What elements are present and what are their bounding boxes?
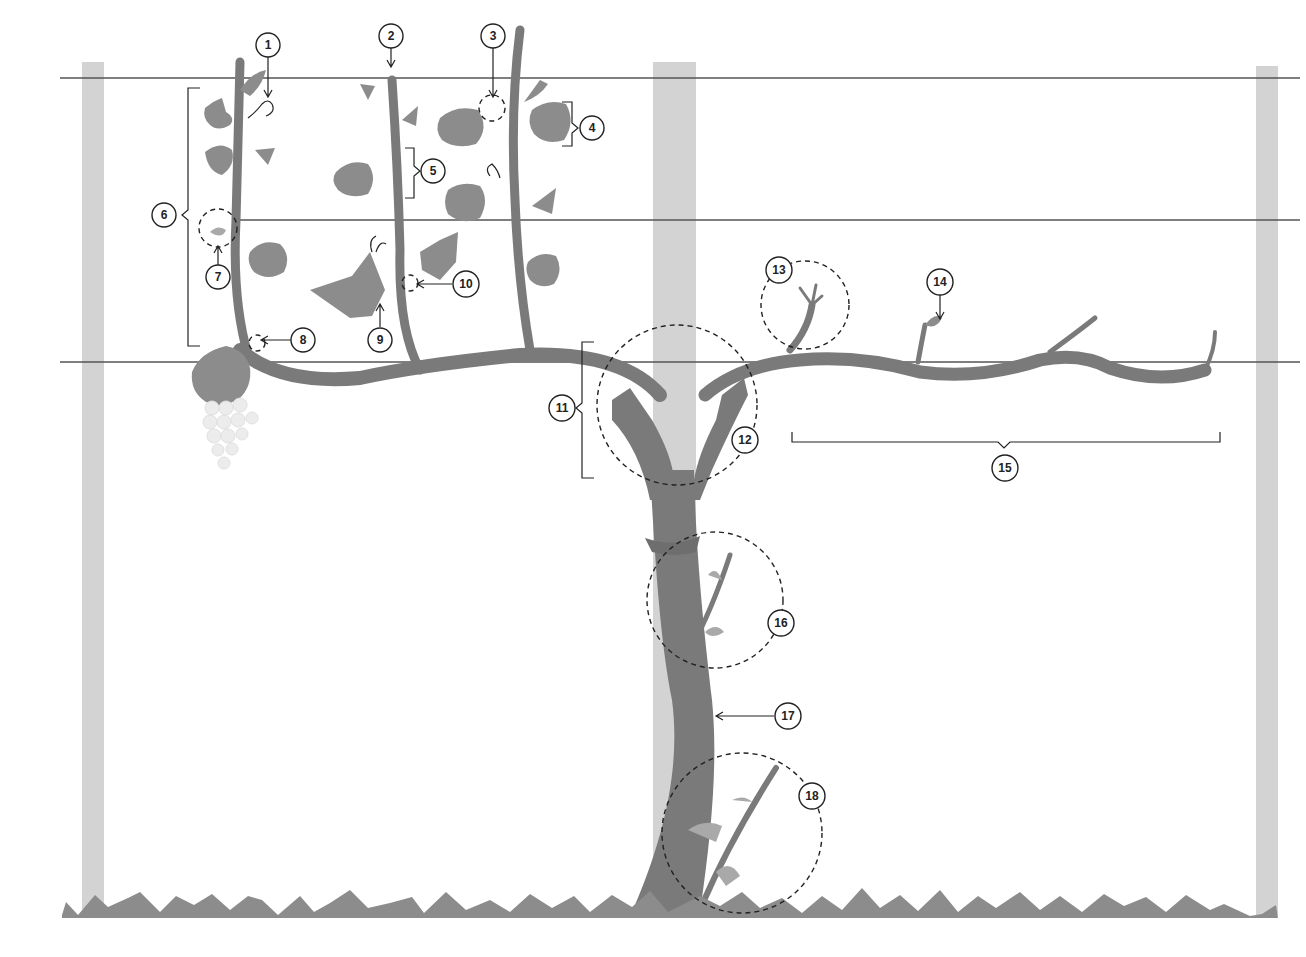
sucker-leaf — [705, 627, 724, 636]
leaf — [420, 232, 458, 280]
callout-17[interactable]: 17 — [775, 703, 801, 729]
trellis-post-right — [1256, 66, 1278, 915]
callout-18[interactable]: 18 — [799, 783, 825, 809]
leader-9 — [376, 304, 384, 327]
bracket-5 — [405, 148, 420, 198]
callout-6[interactable]: 6 — [152, 203, 176, 227]
svg-text:2: 2 — [388, 29, 395, 43]
callout-8[interactable]: 8 — [291, 328, 315, 352]
svg-text:5: 5 — [430, 164, 437, 178]
callout-5[interactable]: 5 — [421, 159, 445, 183]
cordon-right-tip — [1050, 318, 1095, 352]
cordon-right-end — [1205, 332, 1215, 370]
leaf — [333, 162, 373, 196]
svg-text:4: 4 — [589, 121, 596, 135]
tendril-icon — [371, 236, 386, 252]
new-shoot — [918, 325, 925, 362]
leaf — [402, 106, 418, 126]
svg-text:18: 18 — [805, 789, 819, 803]
callout-10[interactable]: 10 — [453, 271, 479, 297]
leaf — [204, 98, 232, 129]
callout-9[interactable]: 9 — [368, 328, 392, 352]
spur-buds — [800, 285, 822, 305]
leader-7 — [214, 246, 222, 265]
leaf — [532, 188, 556, 214]
callout-13[interactable]: 13 — [766, 257, 792, 283]
tendril-icon — [487, 164, 500, 178]
callout-region-3 — [479, 95, 505, 121]
leader-10 — [417, 280, 452, 288]
svg-text:11: 11 — [556, 401, 569, 415]
leaf — [526, 254, 559, 286]
callout-11[interactable]: 11 — [549, 395, 575, 421]
svg-text:13: 13 — [772, 263, 786, 277]
callout-1[interactable]: 1 — [256, 33, 280, 57]
svg-text:16: 16 — [774, 616, 788, 630]
leaf — [310, 252, 385, 318]
callout-region-8 — [249, 335, 265, 351]
svg-text:6: 6 — [161, 208, 168, 222]
svg-text:8: 8 — [300, 333, 307, 347]
tendril-icon — [248, 101, 273, 118]
sucker-leaf — [708, 571, 722, 580]
leader-14 — [936, 295, 944, 319]
callout-4[interactable]: 4 — [580, 116, 604, 140]
vine-trunk — [632, 470, 714, 912]
svg-text:15: 15 — [998, 461, 1012, 475]
svg-text:9: 9 — [377, 333, 384, 347]
bracket-15 — [792, 432, 1220, 448]
callout-15[interactable]: 15 — [992, 455, 1018, 481]
svg-text:3: 3 — [490, 29, 497, 43]
leader-3 — [489, 48, 497, 97]
callout-2[interactable]: 2 — [379, 24, 403, 48]
svg-text:14: 14 — [933, 275, 947, 289]
leader-2 — [387, 48, 395, 67]
grape-cluster — [203, 398, 258, 469]
cordon-left — [240, 350, 660, 395]
leaf — [529, 102, 570, 142]
cordon-right — [705, 357, 1205, 395]
leaf — [524, 80, 548, 102]
svg-text:10: 10 — [459, 277, 473, 291]
cluster-leaf — [192, 346, 251, 405]
callout-7[interactable]: 7 — [206, 265, 230, 289]
leaf — [437, 108, 483, 146]
leaf — [205, 145, 233, 175]
svg-text:1: 1 — [265, 38, 272, 52]
svg-text:12: 12 — [738, 433, 752, 447]
cane-1 — [235, 62, 248, 355]
callout-3[interactable]: 3 — [481, 24, 505, 48]
small-bud-leaf — [210, 227, 226, 235]
sucker-leaf — [716, 866, 740, 886]
leader-1 — [264, 57, 272, 97]
svg-text:7: 7 — [215, 270, 222, 284]
leaf — [445, 184, 485, 221]
grapevine-diagram: 1 2 3 4 5 6 7 8 9 10 11 12 13 14 15 16 1… — [0, 0, 1306, 957]
sucker-leaf — [732, 797, 752, 802]
callout-12[interactable]: 12 — [732, 427, 758, 453]
svg-text:17: 17 — [781, 709, 795, 723]
trellis-post-left — [82, 62, 104, 915]
bracket-6 — [182, 88, 200, 346]
callout-16[interactable]: 16 — [768, 610, 794, 636]
spur — [790, 305, 812, 350]
callout-14[interactable]: 14 — [927, 269, 953, 295]
leaf — [255, 148, 275, 165]
leader-17 — [716, 712, 774, 720]
leaf — [360, 84, 375, 100]
leaf — [249, 242, 288, 277]
leader-8 — [261, 336, 291, 344]
